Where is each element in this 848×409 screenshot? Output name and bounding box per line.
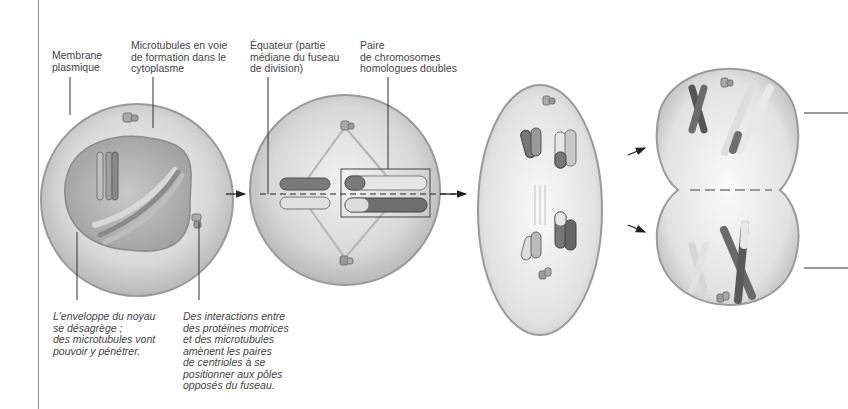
chromosome-pair (97, 152, 118, 200)
prophase-I-cell (41, 104, 233, 296)
caption-interactions: Des interactions entre des protéines mot… (183, 311, 289, 392)
caption-enveloppe: L'enveloppe du noyau se désagrège ; des … (53, 311, 155, 357)
arrow-icon (628, 148, 645, 155)
metaphase-I-cell (250, 95, 458, 285)
label-microtubules: Microtubules en voie de formation dans l… (131, 40, 227, 75)
arrow-icon (628, 225, 645, 232)
label-paire-chromosomes: Paire de chromosomes homologues doubles (360, 40, 457, 75)
anaphase-I-cell (478, 85, 602, 335)
label-equateur: Équateur (partie médiane du fuseau de di… (250, 40, 339, 75)
telophase-I-cytokinesis-cell (657, 69, 799, 305)
label-membrane-plasmique: Membrane plasmique (52, 50, 102, 73)
